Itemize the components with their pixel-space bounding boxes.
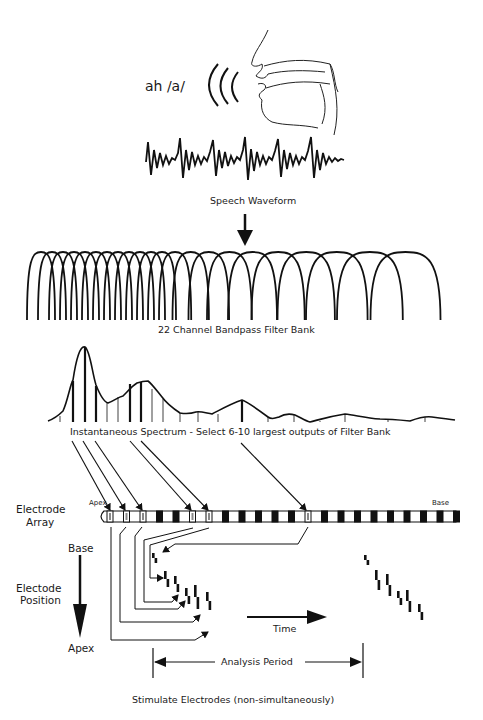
electrode-array-label-1: Electrode <box>16 503 66 515</box>
stimulus-pulses-group-2 <box>364 555 423 620</box>
sound-label: ah /a/ <box>145 78 185 94</box>
diagram-canvas <box>0 0 483 720</box>
waveform-label: Speech Waveform <box>210 195 296 206</box>
time-arrow-icon <box>307 610 327 624</box>
selection-arrows <box>72 441 306 510</box>
analysis-period-label: Analysis Period <box>221 656 293 667</box>
instantaneous-spectrum <box>48 347 455 422</box>
speech-waveform <box>146 137 344 180</box>
down-arrow-icon <box>237 230 253 246</box>
position-label-1: Electode <box>16 582 61 594</box>
position-arrow-icon <box>73 604 87 638</box>
sound-wave-icon <box>209 64 238 106</box>
time-label: Time <box>273 623 296 634</box>
array-base-label: Base <box>432 499 449 507</box>
electrode-array <box>101 511 460 522</box>
stimulus-pulses-group-1 <box>152 553 211 610</box>
filter-bank-curves <box>27 252 441 320</box>
head-profile-icon <box>252 30 338 135</box>
footer-label: Stimulate Electrodes (non-simultaneously… <box>132 694 334 705</box>
array-apex-label: Apex <box>89 499 107 507</box>
spectrum-label: Instantaneous Spectrum - Select 6-10 lar… <box>70 426 391 437</box>
position-base-label: Base <box>68 542 94 554</box>
electrode-array-label-2: Array <box>26 516 54 528</box>
filter-bank-label: 22 Channel Bandpass Filter Bank <box>158 324 315 335</box>
position-label-2: Position <box>20 594 61 606</box>
position-apex-label: Apex <box>68 642 94 654</box>
